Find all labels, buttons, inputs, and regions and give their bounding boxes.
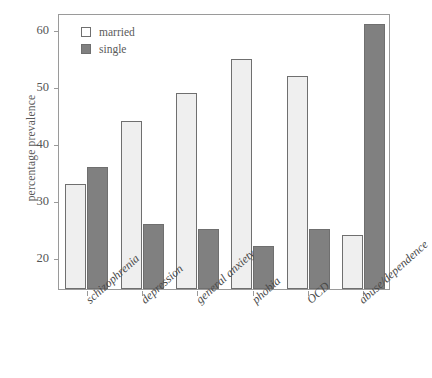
y-tick-mark (54, 88, 59, 89)
y-tick-mark (54, 202, 59, 203)
y-tick-mark (54, 145, 59, 146)
plot-area: 2030405060marriedsingle (58, 14, 390, 290)
legend: marriedsingle (81, 23, 135, 57)
legend-label-single: single (99, 43, 126, 55)
y-tick-label: 40 (9, 137, 49, 152)
y-tick-mark (54, 259, 59, 260)
bar-single-ocd (309, 229, 330, 289)
bar-single-abuse-dependence (364, 24, 385, 289)
bar-married-general-anxiety (176, 93, 197, 289)
y-tick-label: 30 (9, 194, 49, 209)
plot-inner: 2030405060marriedsingle (59, 15, 389, 289)
legend-swatch-single (81, 44, 91, 54)
y-tick-label: 50 (9, 80, 49, 95)
y-tick-label: 60 (9, 23, 49, 38)
bar-single-schizophrenia (87, 167, 108, 289)
legend-item-married: married (81, 23, 135, 40)
bar-married-abuse-dependence (342, 235, 363, 289)
legend-label-married: married (99, 26, 135, 38)
y-tick-mark (54, 31, 59, 32)
legend-swatch-married (81, 27, 91, 37)
y-tick-label: 20 (9, 251, 49, 266)
bar-married-ocd (287, 76, 308, 289)
bar-married-schizophrenia (65, 184, 86, 289)
legend-item-single: single (81, 40, 135, 57)
